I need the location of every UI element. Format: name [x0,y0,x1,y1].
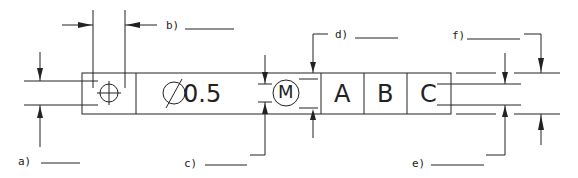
callout-b: b) [166,19,179,32]
callout-a: a) [18,155,31,168]
datum-a: A [334,82,350,106]
mmc-modifier-label: M [278,83,294,101]
callout-c: c) [184,157,197,170]
callout-f: f) [452,29,465,42]
datum-b: B [377,82,393,106]
callout-e: e) [412,157,425,170]
diameter-icon [163,79,185,108]
tolerance-value: 0.5 [183,82,221,106]
position-icon [97,81,121,105]
callout-d: d) [335,28,348,41]
datum-c: C [420,82,437,106]
feature-control-frame [82,73,451,114]
